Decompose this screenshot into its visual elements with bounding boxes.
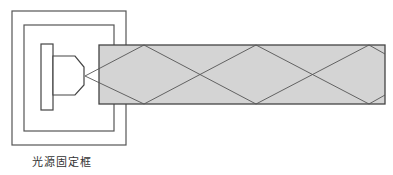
light-source-head	[53, 56, 84, 95]
light-source-diagram	[0, 0, 393, 175]
light-guide	[99, 45, 385, 104]
frame-label: 光源固定框	[20, 153, 104, 169]
light-source-base	[41, 44, 53, 110]
